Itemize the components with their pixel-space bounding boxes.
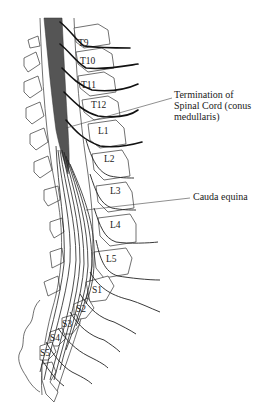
label-T12: T12 (91, 100, 107, 110)
label-S1: S1 (92, 285, 102, 295)
label-S4: S4 (50, 333, 60, 343)
label-T11: T11 (81, 80, 96, 90)
spinal-anatomy-diagram: T9 T10 T11 T12 L1 L2 L3 L4 L5 S1 S2 S3 S… (0, 0, 275, 411)
callout-conus-line3: medullaris) (174, 111, 220, 123)
label-T9: T9 (78, 38, 89, 48)
callout-cauda-text: Cauda equina (193, 191, 248, 202)
label-S2: S2 (76, 304, 86, 314)
coccyx (42, 362, 58, 402)
label-S5: S5 (40, 348, 50, 358)
callout-conus-line1: Termination of (174, 89, 234, 100)
label-L5: L5 (106, 254, 117, 264)
label-L1: L1 (98, 126, 109, 136)
label-L3: L3 (110, 186, 121, 196)
vertebra-L4 (98, 214, 136, 246)
label-S3: S3 (62, 319, 72, 329)
label-L4: L4 (110, 220, 121, 230)
label-L2: L2 (104, 154, 115, 164)
label-T10: T10 (80, 56, 96, 66)
